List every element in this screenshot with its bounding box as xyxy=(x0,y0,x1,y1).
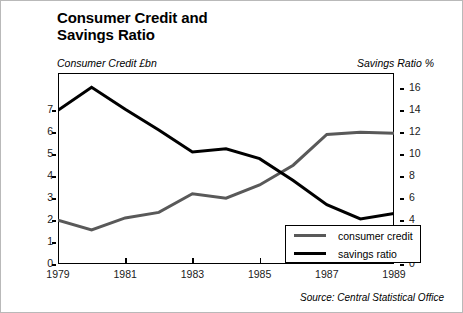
left-tick-label: 2 xyxy=(35,213,53,225)
series-line-consumer-credit xyxy=(58,132,394,230)
right-tick-label: 8 xyxy=(409,169,429,181)
left-tick-mark xyxy=(52,154,56,156)
x-tick-label: 1989 xyxy=(374,268,414,280)
right-tick-mark xyxy=(400,110,404,112)
right-tick-label: 14 xyxy=(409,103,429,115)
x-tick-label: 1987 xyxy=(307,268,347,280)
left-tick-label: 3 xyxy=(35,191,53,203)
left-tick-label: 7 xyxy=(35,103,53,115)
left-axis-ticks: 01234567 xyxy=(31,73,53,264)
title-line-1: Consumer Credit and xyxy=(57,9,387,26)
right-tick-mark xyxy=(400,176,404,178)
source-note: Source: Central Statistical Office xyxy=(300,292,444,303)
left-tick-label: 5 xyxy=(35,147,53,159)
x-tick-label: 1981 xyxy=(105,268,145,280)
x-axis-ticks: 197919811983198519871989 xyxy=(58,267,394,285)
left-tick-mark xyxy=(52,264,56,266)
title-line-2: Savings Ratio xyxy=(57,26,387,43)
right-tick-mark xyxy=(400,88,404,90)
left-tick-label: 1 xyxy=(35,235,53,247)
chart-figure: Consumer Credit and Savings Ratio Consum… xyxy=(0,0,463,313)
left-tick-mark xyxy=(52,198,56,200)
right-tick-label: 4 xyxy=(409,213,429,225)
chart-legend: consumer credit savings ratio xyxy=(285,225,421,263)
right-axis-caption: Savings Ratio % xyxy=(357,57,434,69)
x-tick-mark xyxy=(125,258,127,263)
x-tick-mark xyxy=(192,258,194,263)
right-tick-label: 10 xyxy=(409,147,429,159)
left-tick-label: 4 xyxy=(35,169,53,181)
right-tick-mark xyxy=(400,264,404,266)
page-title: Consumer Credit and Savings Ratio xyxy=(57,9,387,43)
right-tick-mark xyxy=(400,198,404,200)
x-tick-label: 1979 xyxy=(38,268,78,280)
right-tick-label: 16 xyxy=(409,81,429,93)
x-tick-label: 1985 xyxy=(240,268,280,280)
legend-item-consumer-credit: consumer credit xyxy=(286,226,420,245)
legend-item-savings-ratio: savings ratio xyxy=(286,244,420,263)
right-tick-label: 12 xyxy=(409,125,429,137)
legend-label-savings-ratio: savings ratio xyxy=(338,248,397,260)
right-tick-mark xyxy=(400,132,404,134)
left-tick-mark xyxy=(52,220,56,222)
legend-swatch-savings-ratio xyxy=(294,252,326,255)
left-tick-mark xyxy=(52,110,56,112)
left-axis-caption: Consumer Credit £bn xyxy=(57,57,157,69)
legend-swatch-consumer-credit xyxy=(294,234,326,237)
legend-label-consumer-credit: consumer credit xyxy=(338,230,413,242)
right-tick-mark xyxy=(400,154,404,156)
left-tick-mark xyxy=(52,132,56,134)
right-tick-label: 6 xyxy=(409,191,429,203)
x-tick-mark xyxy=(260,258,262,263)
left-tick-mark xyxy=(52,242,56,244)
left-tick-label: 6 xyxy=(35,125,53,137)
right-tick-mark xyxy=(400,220,404,222)
x-tick-label: 1983 xyxy=(172,268,212,280)
left-tick-mark xyxy=(52,176,56,178)
